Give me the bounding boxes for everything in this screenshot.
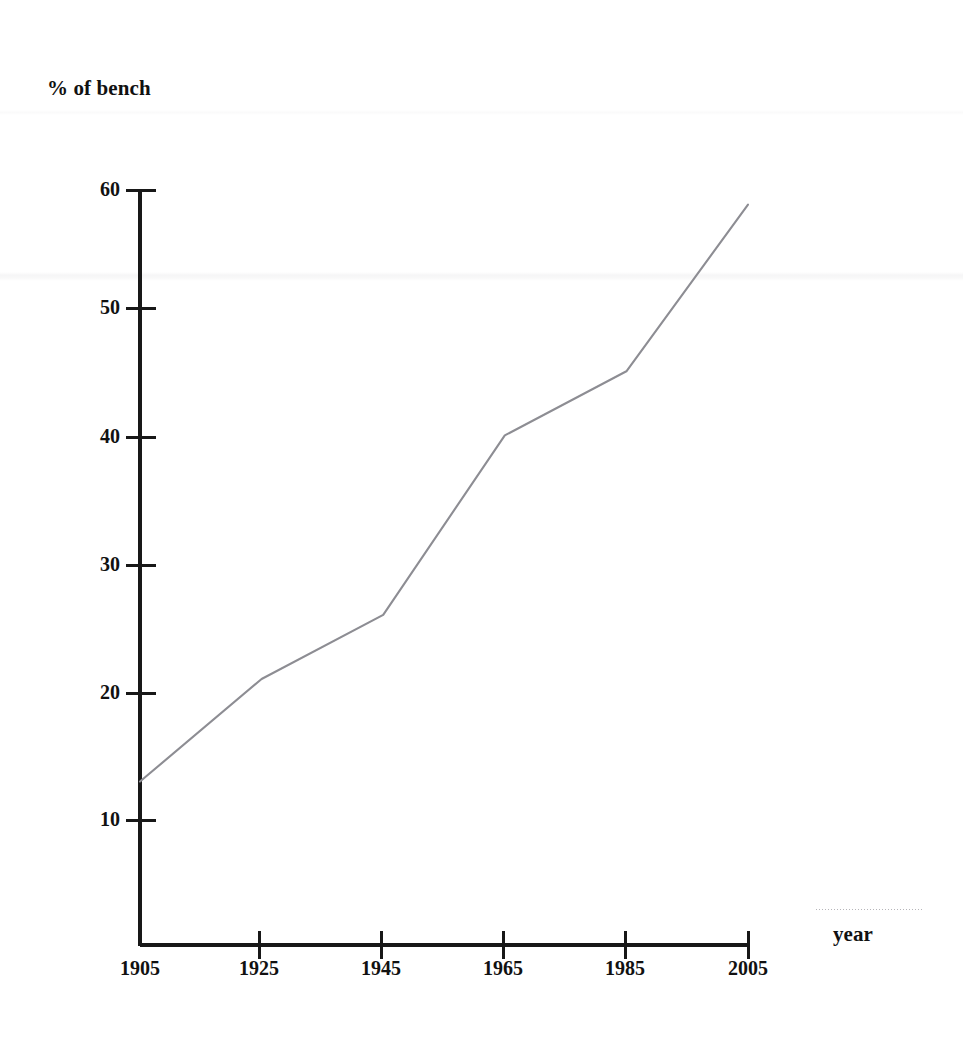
plot-area — [0, 0, 963, 1047]
line-chart-figure: % of bench year 60 50 40 30 20 10 1905 1… — [0, 0, 963, 1047]
axis-group — [126, 190, 749, 959]
data-series-line — [140, 205, 748, 782]
